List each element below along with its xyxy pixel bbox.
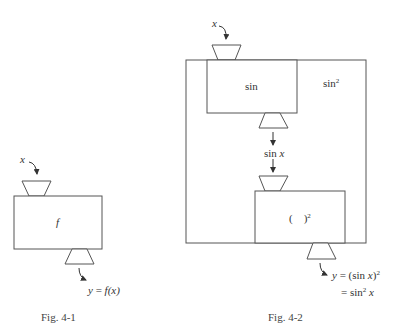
fig-4-2-output-funnel bbox=[307, 243, 336, 259]
fig-4-1-output-eq: = bbox=[96, 284, 105, 296]
fig-4-1-output-funnel bbox=[65, 249, 94, 264]
fig-4-2-intermediate-label: sin x bbox=[264, 148, 284, 159]
fig-4-1-output-arrow bbox=[79, 268, 86, 280]
fig-4-2-outer-box-sup: 2 bbox=[336, 77, 340, 85]
fig-4-2-output-arrow bbox=[320, 263, 327, 275]
fig-4-1-output-var: y bbox=[88, 284, 93, 296]
fig-4-2-input-funnel bbox=[212, 45, 241, 60]
fig-4-2-outer-box-fn: sin bbox=[323, 77, 336, 89]
fig-4-2-output-line-1-rest: = (sin bbox=[337, 269, 368, 281]
fig-4-2-square-box-parens: ( ) bbox=[289, 212, 307, 224]
diagram-canvas bbox=[0, 0, 401, 335]
fig-4-1-output-label: y = f(x) bbox=[88, 285, 120, 296]
fig-4-1-input-arrow bbox=[29, 162, 37, 174]
fig-4-2-intermediate-var: x bbox=[280, 147, 285, 159]
fig-4-2-output-line-2-rest: = sin bbox=[341, 286, 363, 298]
fig-4-1-caption: Fig. 4-1 bbox=[41, 312, 76, 323]
fig-4-2-outer-box-label: sin2 bbox=[323, 78, 339, 89]
fig-4-2-caption: Fig. 4-2 bbox=[268, 312, 303, 323]
fig-4-1-box-label: f bbox=[56, 217, 59, 228]
fig-4-2-output-line-1-sup: 2 bbox=[376, 269, 380, 277]
fig-4-1-input-label: x bbox=[20, 154, 25, 165]
fig-4-2-square-box-sup: 2 bbox=[307, 212, 311, 220]
fig-4-2-output-line-1: y = (sin x)2 bbox=[332, 270, 380, 281]
fig-4-2-output-line-2: = sin2 x bbox=[341, 287, 374, 298]
fig-4-2-output-line-2-sup: 2 bbox=[363, 286, 367, 294]
fig-4-1-input-funnel bbox=[22, 181, 51, 196]
fig-4-2-output-line-2-x: x bbox=[369, 286, 374, 298]
fig-4-2-sin-box-label: sin bbox=[245, 81, 258, 92]
fig-4-2-input-label: x bbox=[212, 18, 217, 29]
fig-4-2-intermediate-fn: sin bbox=[264, 147, 277, 159]
fig-4-2-square-input-funnel bbox=[259, 176, 288, 191]
fig-4-2-sin-output-funnel bbox=[259, 113, 288, 128]
fig-4-2-square-box-label: ( )2 bbox=[289, 213, 311, 224]
fig-4-1-output-expr: f(x) bbox=[105, 284, 120, 296]
fig-4-2-input-arrow bbox=[219, 26, 226, 39]
